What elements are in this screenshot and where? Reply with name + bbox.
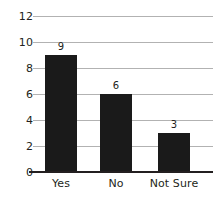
bar-chart-figure: 12 10 8 6 4 2 0 9 6 3 Yes No Not Sure: [0, 0, 221, 202]
ytick-label-4: 4: [7, 115, 33, 126]
bar-yes[interactable]: [45, 55, 77, 172]
plot-area: 12 10 8 6 4 2 0 9 6 3 Yes No Not Sure: [0, 0, 221, 202]
ytick-label-6: 6: [7, 89, 33, 100]
gridline-12: [33, 16, 213, 17]
category-label-yes: Yes: [37, 178, 85, 189]
ytick-label-2: 2: [7, 141, 33, 152]
bar-not-sure[interactable]: [158, 133, 190, 172]
bar-value-no: 6: [100, 81, 132, 91]
bar-value-not-sure: 3: [158, 120, 190, 130]
x-axis-line: [29, 171, 213, 173]
category-label-not-sure: Not Sure: [143, 178, 205, 189]
bar-value-yes: 9: [45, 42, 77, 52]
ytick-label-8: 8: [7, 63, 33, 74]
ytick-label-10: 10: [7, 37, 33, 48]
bar-no[interactable]: [100, 94, 132, 172]
category-label-no: No: [92, 178, 140, 189]
ytick-label-12: 12: [7, 11, 33, 22]
